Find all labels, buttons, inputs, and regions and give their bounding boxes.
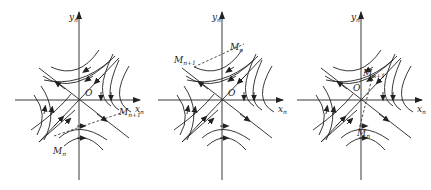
- panel-b: yn xn O Mn+1 Mn: [158, 12, 287, 180]
- x-axis-label: xn: [417, 104, 426, 115]
- point-mn-label: Mn: [229, 42, 243, 53]
- origin-label: O: [228, 88, 236, 98]
- origin-label: O: [353, 83, 361, 93]
- y-axis-label: yn: [68, 12, 78, 23]
- point-mn1-label: Mn+1: [173, 55, 196, 66]
- y-axis-label: yn: [211, 12, 221, 23]
- panel-a: yn xn O Mn Mn+1: [15, 12, 144, 180]
- point-mn-label: Mn: [52, 146, 66, 157]
- origin-label: O: [85, 88, 93, 98]
- phase-portraits: yn xn O Mn Mn+1 yn xn O Mn+1 Mn yn xn O …: [0, 0, 431, 190]
- point-mn-label: Mn: [356, 128, 370, 139]
- y-axis-label: yn: [350, 12, 360, 23]
- panel-c: yn xn O Mn Mn+1: [297, 12, 426, 180]
- x-axis-label: xn: [278, 104, 287, 115]
